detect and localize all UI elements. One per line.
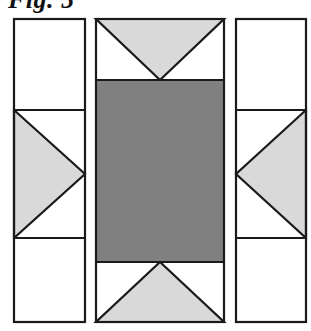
right-cell-top-background [236, 19, 306, 110]
panel-group [14, 19, 306, 322]
left-panel [14, 19, 85, 322]
right-cell-bottom-background [236, 238, 306, 322]
center-panel [96, 19, 224, 322]
left-cell-top-background [14, 19, 85, 110]
figure-drawing [0, 0, 311, 331]
right-panel [236, 19, 306, 322]
center-cell-middle-background [96, 80, 224, 262]
left-cell-bottom-background [14, 238, 85, 322]
figure-container: Fig. 5 [0, 0, 311, 331]
